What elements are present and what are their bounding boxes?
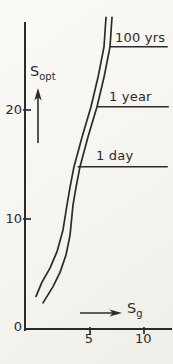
y-tick-label-20: 20 [2, 103, 22, 116]
chart-figure: 20 10 0 5 10 Sopt Sg 100 yrs 1 year 1 da… [0, 0, 173, 364]
x-axis-title-subscript: g [136, 308, 142, 319]
y-tick-label-10: 10 [2, 212, 22, 225]
ref-line-label-1-year: 1 year [109, 90, 152, 103]
plot-canvas [0, 0, 173, 364]
x-axis-title: Sg [127, 301, 143, 316]
ref-line-label-100-yrs: 100 yrs [115, 31, 165, 44]
x-tick-label-10: 10 [135, 332, 151, 345]
x-axis-arrow-icon [80, 309, 122, 316]
y-axis-title: Sopt [30, 64, 56, 79]
y-axis-title-main: S [30, 63, 39, 79]
y-axis-title-subscript: opt [39, 71, 55, 82]
ref-line-label-1-day: 1 day [96, 149, 133, 162]
x-axis-title-main: S [127, 300, 136, 316]
y-axis-arrow-icon [34, 88, 41, 143]
y-tick-label-0: 0 [2, 320, 22, 333]
x-tick-label-5: 5 [82, 332, 96, 345]
